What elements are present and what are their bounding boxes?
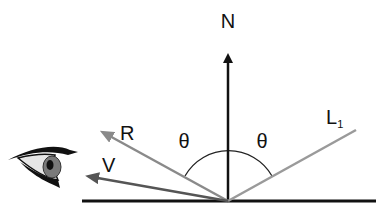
angle-left-label: θ (178, 130, 189, 152)
light-label-subscript: 1 (337, 118, 343, 130)
normal-label: N (221, 10, 235, 32)
reflection-diagram: N R V θ θ L1 (0, 0, 386, 215)
view-label: V (102, 154, 116, 176)
eye-icon (8, 147, 78, 188)
reflected-label: R (120, 122, 134, 144)
angle-right-label: θ (256, 130, 267, 152)
light-vector (228, 130, 356, 201)
light-label: L1 (326, 106, 343, 130)
light-label-main: L (326, 106, 337, 128)
